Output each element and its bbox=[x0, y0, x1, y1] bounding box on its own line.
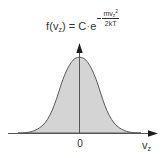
x-axis-arrowhead-icon bbox=[148, 130, 158, 137]
y-axis-arrowhead-icon bbox=[76, 43, 82, 53]
x-axis-label-subscript: z bbox=[148, 145, 152, 152]
origin-tick-label: 0 bbox=[74, 139, 86, 149]
velocity-distribution-figure: f(vz) = C·e mvz2 2kT 0 vz bbox=[0, 0, 165, 158]
gaussian-plot bbox=[0, 0, 165, 158]
x-axis-label: vz bbox=[142, 140, 151, 152]
